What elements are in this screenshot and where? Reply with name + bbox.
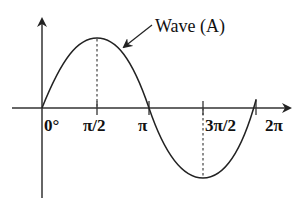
- wave-a-label: Wave (A): [155, 16, 225, 37]
- tick-label-2pi: 2π: [265, 116, 283, 136]
- tick-label-pi-half: π/2: [83, 116, 106, 136]
- sine-wave-diagram: [0, 0, 306, 209]
- tick-label-0: 0°: [44, 116, 59, 136]
- tick-label-pi: π: [138, 116, 147, 136]
- x-axis-ticks: [97, 99, 256, 115]
- wave-annotation-arrow: [124, 25, 152, 47]
- tick-label-3pi-half: 3π/2: [205, 116, 236, 136]
